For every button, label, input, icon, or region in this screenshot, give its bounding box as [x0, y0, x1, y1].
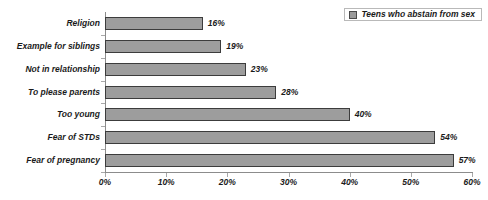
category-label: Fear of pregnancy	[0, 154, 100, 167]
x-axis-tick-label: 10%	[158, 178, 175, 187]
bar-value-label: 16%	[208, 17, 225, 30]
category-label: Not in relationship	[0, 63, 100, 76]
category-label: To please parents	[0, 86, 100, 99]
bar-to-please-parents	[105, 86, 276, 99]
plot-area: 16%19%23%28%40%54%57%	[105, 12, 472, 172]
category-label: Religion	[0, 17, 100, 30]
y-axis-tick	[101, 35, 105, 36]
bar-religion	[105, 17, 203, 30]
x-axis-tick-label: 40%	[341, 178, 358, 187]
bar-too-young	[105, 108, 350, 121]
bar-example-for-siblings	[105, 40, 221, 53]
bar-value-label: 23%	[251, 63, 268, 76]
bar-not-in-relationship	[105, 63, 246, 76]
x-axis-tick-label: 60%	[463, 178, 480, 187]
y-axis-tick	[101, 126, 105, 127]
y-axis-tick	[101, 172, 105, 173]
y-axis-tick	[101, 103, 105, 104]
bar-fear-of-stds	[105, 131, 435, 144]
bar-chart: Teens who abstain from sex 16%19%23%28%4…	[0, 0, 488, 200]
bar-value-label: 54%	[440, 131, 457, 144]
category-label: Fear of STDs	[0, 131, 100, 144]
category-label: Too young	[0, 108, 100, 121]
bar-value-label: 28%	[281, 86, 298, 99]
bar-fear-of-pregnancy	[105, 154, 454, 167]
x-axis-tick-label: 50%	[402, 178, 419, 187]
category-label: Example for siblings	[0, 40, 100, 53]
bar-value-label: 40%	[355, 108, 372, 121]
x-axis-tick-label: 20%	[219, 178, 236, 187]
y-axis-tick	[101, 58, 105, 59]
x-axis-tick-label: 30%	[280, 178, 297, 187]
x-axis-tick-label: 0%	[99, 178, 111, 187]
y-axis-tick	[101, 149, 105, 150]
bar-value-label: 19%	[226, 40, 243, 53]
y-axis-tick	[101, 81, 105, 82]
bar-value-label: 57%	[459, 154, 476, 167]
